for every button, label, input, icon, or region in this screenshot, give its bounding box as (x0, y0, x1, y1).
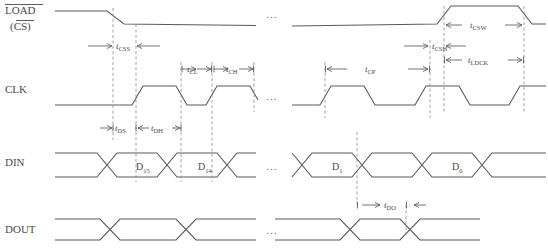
waveform-din-left (55, 153, 256, 177)
measure-tcss: tCSS (88, 41, 160, 52)
label-tcsw: tCSW (470, 20, 487, 31)
signal-label-load: LOAD (CS) (5, 4, 43, 33)
label-tcp: tCP (365, 64, 376, 75)
data-label-d0: D0 (452, 161, 462, 174)
ellipsis-clk: … (266, 90, 278, 102)
measure-tch: tCH (214, 64, 254, 75)
signal-label-clk: CLK (5, 83, 27, 95)
measure-tldck: tLDCK (445, 55, 524, 66)
signal-label-cs-text: (CS) (10, 20, 31, 33)
measure-tcsw: tCSW (446, 20, 522, 31)
waveform-din-right (292, 153, 546, 177)
measure-tcl: tCL (182, 64, 212, 75)
measure-tcp: tCP (326, 64, 430, 75)
waveform-clk-left (55, 86, 258, 105)
ellipsis-dout: … (266, 224, 278, 236)
waveform-load-right (292, 6, 546, 26)
measure-tdh: tDH (136, 123, 181, 134)
data-label-d14: D14 (198, 161, 212, 174)
label-tch: tCH (226, 64, 238, 75)
ellipsis-load: … (266, 8, 278, 20)
signal-label-load-text: LOAD (5, 4, 36, 16)
data-label-d15: D15 (136, 161, 150, 174)
waveform-clk-right (292, 86, 546, 105)
label-tldck: tLDCK (468, 55, 489, 66)
measure-tcsh: tCSH (404, 41, 466, 52)
waveform-dout-right (275, 219, 480, 240)
waveform-load-left (55, 11, 256, 26)
ellipsis-din: … (266, 160, 278, 172)
timing-diagram: LOAD (CS) CLK DIN DOUT (0, 0, 548, 249)
waveform-dout-left (55, 219, 256, 240)
data-label-d1: D1 (332, 161, 342, 174)
label-tdh: tDH (151, 123, 163, 134)
label-tcl: tCL (187, 64, 198, 75)
signal-label-dout: DOUT (5, 223, 36, 235)
label-tcss: tCSS (116, 41, 130, 52)
label-tds: tDS (115, 123, 126, 134)
label-tcsh: tCSH (432, 41, 447, 52)
label-tdo: tDO (384, 200, 396, 211)
signal-label-din: DIN (5, 156, 25, 168)
measure-tdo: tDO (358, 200, 427, 211)
